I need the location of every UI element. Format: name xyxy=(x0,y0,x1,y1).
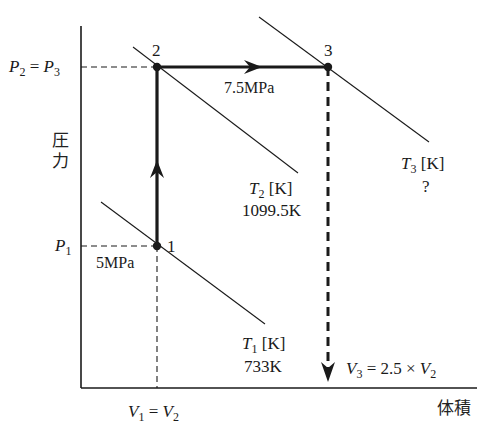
y-axis-label-2: 力 xyxy=(52,153,69,170)
p1-value: 5MPa xyxy=(96,255,134,271)
t2-label: T2 [K] xyxy=(249,180,292,200)
t1-value: 733K xyxy=(244,358,282,375)
p2-eq-p3-label: P2 = P3 xyxy=(9,58,60,78)
point-1 xyxy=(153,242,161,250)
point-2 xyxy=(153,63,161,71)
isobaric-pressure-label: 7.5MPa xyxy=(224,80,274,96)
point-3-label: 3 xyxy=(324,42,333,59)
t3-label: T3 [K] xyxy=(401,155,444,175)
point-2-label: 2 xyxy=(152,42,161,59)
t2-value: 1099.5K xyxy=(242,202,301,219)
t1-label: T1 [K] xyxy=(242,335,285,355)
t3-value: ? xyxy=(422,178,430,195)
isotherm-t3 xyxy=(259,17,429,142)
point-1-label: 1 xyxy=(167,238,176,255)
p1-label: P1 xyxy=(55,237,71,257)
arrow-down-icon xyxy=(321,362,335,382)
v1-eq-v2-label: V1 = V2 xyxy=(128,403,179,423)
y-axis-label-1: 圧 xyxy=(52,132,69,149)
x-axis-label: 体積 xyxy=(437,400,471,417)
v3-label: V3 = 2.5 × V2 xyxy=(346,360,436,380)
point-3 xyxy=(324,63,332,71)
